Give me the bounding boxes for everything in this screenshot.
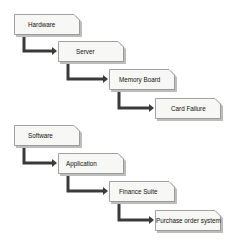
flow-node: Software: [14, 125, 80, 146]
arrowhead-icon: [52, 47, 57, 55]
node-label: Card Failure: [155, 98, 237, 119]
arrowhead-icon: [103, 187, 108, 195]
elbow-connector: [68, 174, 104, 191]
arrowhead-icon: [149, 104, 154, 112]
flow-node: Finance Suite: [109, 181, 175, 202]
node-label: Hardware: [14, 14, 94, 35]
arrowhead-icon: [149, 216, 154, 224]
node-label: Application: [58, 153, 132, 174]
flow-node: Purchase order system: [155, 210, 221, 231]
node-label: Finance Suite: [109, 181, 185, 202]
node-label: Purchase order system: [155, 210, 222, 231]
elbow-connector: [119, 202, 150, 220]
elbow-connector: [68, 62, 104, 79]
flow-node: Hardware: [14, 14, 80, 35]
arrowhead-icon: [103, 75, 108, 83]
elbow-connector: [24, 146, 53, 163]
elbow-connector: [24, 35, 53, 51]
node-label: Software: [14, 125, 94, 146]
flow-node: Card Failure: [155, 98, 221, 119]
node-label: Server: [58, 41, 142, 62]
flow-node: Application: [58, 153, 124, 174]
flow-node: Memory Board: [109, 69, 175, 90]
arrowhead-icon: [52, 159, 57, 167]
flow-node: Server: [58, 41, 124, 62]
node-label: Memory Board: [109, 69, 185, 90]
elbow-connector: [119, 90, 150, 108]
